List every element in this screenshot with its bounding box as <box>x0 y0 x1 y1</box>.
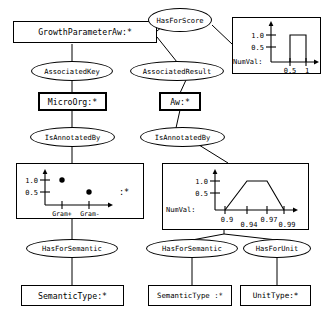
chart-aw-xtick-2: 0.94 <box>241 221 258 229</box>
chart-score: 1.0 0.5 0.5 1 NumVal: <box>232 17 321 74</box>
chart-aw: 1.0 0.5 0.9 0.94 0.97 0.99 NumVal: <box>162 163 309 230</box>
node-is-annotated-by-left[interactable]: IsAnnotatedBy <box>30 127 115 147</box>
node-label: AssociatedResult <box>143 67 211 76</box>
chart-aw-xtick-1: 0.9 <box>221 216 234 224</box>
node-label: IsAnnotatedBy <box>155 133 211 142</box>
chart-microorg-xtick-1: Gram+ <box>52 210 72 218</box>
node-has-for-semantic-left[interactable]: HasForSemantic <box>26 239 118 258</box>
node-label: GrowthParameterAw:* <box>38 27 132 37</box>
diagram-canvas: GrowthParameterAw:* HasForScore 1.0 0.5 … <box>0 0 329 320</box>
node-associated-result[interactable]: AssociatedResult <box>130 61 224 81</box>
node-micro-org[interactable]: MicroOrg:* <box>38 92 107 111</box>
chart-score-svg: 1.0 0.5 0.5 1 NumVal: <box>233 18 320 73</box>
node-aw[interactable]: Aw:* <box>159 92 201 111</box>
chart-microorg-svg: 1.0 0.5 Gram+ Gram- :* <box>17 164 143 218</box>
scatter-point <box>86 189 91 194</box>
node-is-annotated-by-right[interactable]: IsAnnotatedBy <box>140 127 225 147</box>
node-unit-type[interactable]: UnitType:* <box>240 285 311 306</box>
chart-microorg: 1.0 0.5 Gram+ Gram- :* <box>16 163 144 219</box>
node-has-for-semantic-right[interactable]: HasForSemantic <box>146 239 238 258</box>
chart-aw-ytick-1: 1.0 <box>195 178 208 186</box>
chart-score-xtick-2: 1 <box>305 67 309 73</box>
node-label: HasForUnit <box>256 244 299 253</box>
node-label: SemanticType:* <box>38 291 107 301</box>
node-semantic-type-left[interactable]: SemanticType:* <box>21 285 124 306</box>
chart-microorg-xtick-2: Gram- <box>80 210 100 218</box>
chart-score-ytick-2: 0.5 <box>251 44 264 52</box>
chart-aw-ylabel: NumVal: <box>166 206 196 214</box>
chart-aw-svg: 1.0 0.5 0.9 0.94 0.97 0.99 NumVal: <box>163 164 308 229</box>
chart-microorg-ytick-2: 0.5 <box>25 189 38 197</box>
chart-aw-xtick-3: 0.97 <box>261 216 278 224</box>
chart-score-xtick-1: 0.5 <box>284 67 297 73</box>
node-associated-key[interactable]: AssociatedKey <box>31 61 113 81</box>
node-label: HasForSemantic <box>42 244 102 253</box>
chart-microorg-ytick-1: 1.0 <box>25 177 38 185</box>
node-label: AssociatedKey <box>44 67 100 76</box>
chart-aw-ytick-2: 0.5 <box>195 190 208 198</box>
node-label: Aw:* <box>170 97 190 107</box>
scatter-point <box>59 177 64 182</box>
node-has-for-unit[interactable]: HasForUnit <box>243 239 311 258</box>
node-label: IsAnnotatedBy <box>45 133 101 142</box>
node-label: MicroOrg:* <box>48 97 97 107</box>
node-semantic-type-right[interactable]: SemanticType :* <box>148 285 232 306</box>
node-label: UnitType:* <box>253 291 299 300</box>
node-label: SemanticType :* <box>157 291 223 300</box>
node-has-for-score[interactable]: HasForScore <box>148 8 212 32</box>
chart-aw-xtick-4: 0.99 <box>279 221 296 229</box>
node-label: HasForScore <box>157 16 204 25</box>
node-growth-parameter-aw[interactable]: GrowthParameterAw:* <box>13 21 157 43</box>
node-label: HasForSemantic <box>162 244 222 253</box>
chart-microorg-annotation: :* <box>119 187 129 197</box>
chart-score-ytick-1: 1.0 <box>251 32 264 40</box>
chart-score-ylabel: NumVal: <box>233 58 263 66</box>
